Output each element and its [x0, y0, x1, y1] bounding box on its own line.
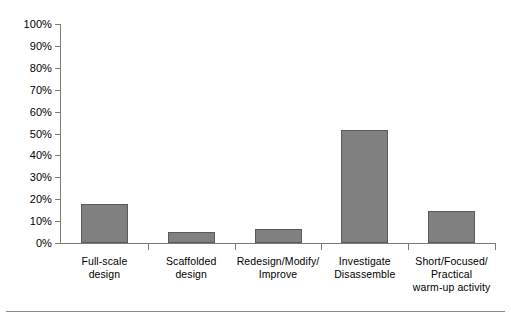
y-axis-tick: [55, 243, 61, 244]
y-axis-tick-label-text: 90%: [4, 41, 52, 52]
y-axis-tick-label-text: 10%: [4, 216, 52, 227]
x-axis-category-label: Redesign/Modify/ Improve: [235, 255, 322, 281]
x-axis-tick: [321, 244, 322, 250]
y-axis-tick-label: 0%: [0, 238, 52, 249]
x-axis-category-label: Scaffolded design: [148, 255, 235, 281]
x-axis-category-label: Full-scale design: [61, 255, 148, 281]
y-axis-tick-label: 100%: [0, 19, 52, 30]
y-axis-tick-label: 10%: [0, 216, 52, 227]
bar: [168, 232, 215, 243]
x-axis-category-label: Short/Focused/ Practical warm-up activit…: [408, 255, 495, 294]
plot-area: [61, 24, 495, 243]
caption-divider: [6, 311, 505, 312]
y-axis-tick-label-text: 20%: [4, 194, 52, 205]
y-axis-tick-label: 40%: [0, 150, 52, 161]
y-axis-tick-label-text: 30%: [4, 172, 52, 183]
y-axis-tick-label-text: 50%: [4, 129, 52, 140]
y-axis-tick-label: 20%: [0, 194, 52, 205]
y-axis-tick-label-text: 60%: [4, 107, 52, 118]
x-axis-category-label: Investigate Disassemble: [321, 255, 408, 281]
x-axis-tick: [408, 244, 409, 250]
y-axis-tick-label: 60%: [0, 107, 52, 118]
bar: [428, 211, 475, 243]
y-axis-tick-label: 30%: [0, 172, 52, 183]
y-axis-tick-label: 90%: [0, 41, 52, 52]
x-axis-line: [60, 243, 496, 244]
y-axis-tick-label: 70%: [0, 85, 52, 96]
y-axis-tick-label: 50%: [0, 129, 52, 140]
bar: [341, 130, 388, 243]
x-axis-tick: [235, 244, 236, 250]
y-axis-tick-label-text: 80%: [4, 63, 52, 74]
x-axis-tick: [148, 244, 149, 250]
y-axis-tick-label: 80%: [0, 63, 52, 74]
y-axis-tick-label-text: 40%: [4, 150, 52, 161]
y-axis-tick-label-text: 100%: [4, 19, 52, 30]
bar: [81, 204, 128, 243]
x-axis-tick: [495, 244, 496, 250]
y-axis-tick-label-text: 0%: [4, 238, 52, 249]
bar-chart-figure: 0%10%20%30%40%50%60%70%80%90%100% Full-s…: [0, 0, 511, 322]
y-axis-tick-label-text: 70%: [4, 85, 52, 96]
bar: [255, 229, 302, 243]
